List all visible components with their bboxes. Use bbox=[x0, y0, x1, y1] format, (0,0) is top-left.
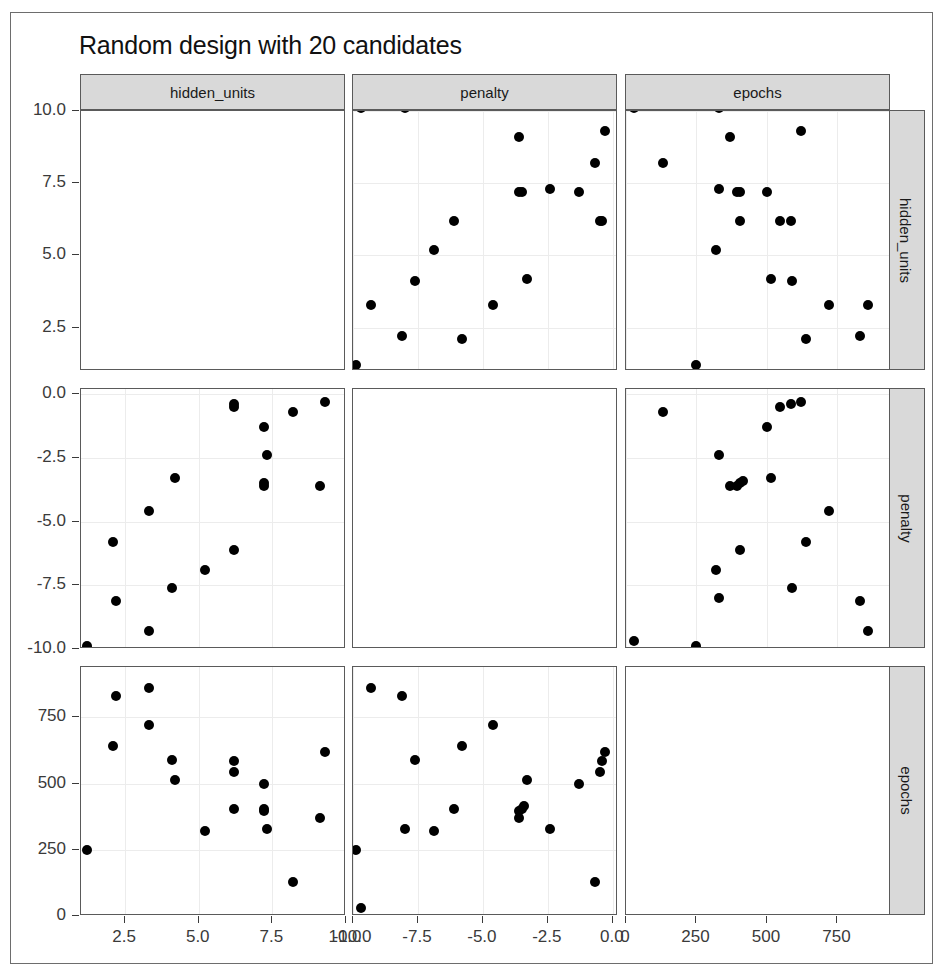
gridline-horizontal bbox=[81, 717, 344, 718]
data-point bbox=[259, 422, 269, 432]
x-tick-label: 2.5 bbox=[112, 927, 136, 947]
data-point bbox=[259, 478, 269, 488]
gridline-vertical bbox=[613, 667, 614, 914]
gridline-vertical bbox=[483, 111, 484, 369]
y-tick-mark bbox=[72, 783, 79, 784]
data-point bbox=[108, 537, 118, 547]
column-strip-hidden_units: hidden_units bbox=[80, 74, 345, 110]
data-point bbox=[855, 331, 865, 341]
data-point bbox=[229, 756, 239, 766]
column-strip-label: hidden_units bbox=[170, 84, 255, 101]
data-point bbox=[629, 636, 639, 646]
data-point bbox=[545, 824, 555, 834]
data-point bbox=[144, 506, 154, 516]
y-tick-label: 500 bbox=[0, 773, 66, 793]
gridline-vertical bbox=[125, 667, 126, 914]
y-tick-mark bbox=[72, 110, 79, 111]
y-tick-mark bbox=[72, 849, 79, 850]
row-strip-penalty: penalty bbox=[887, 388, 925, 648]
gridline-vertical bbox=[483, 667, 484, 914]
gridline-horizontal bbox=[81, 394, 344, 395]
x-tick-mark bbox=[417, 916, 418, 923]
data-point bbox=[824, 300, 834, 310]
x-tick-mark bbox=[625, 916, 626, 923]
data-point bbox=[600, 126, 610, 136]
data-point bbox=[356, 903, 366, 913]
data-point bbox=[775, 402, 785, 412]
data-point bbox=[517, 187, 527, 197]
y-tick-mark bbox=[72, 457, 79, 458]
data-point bbox=[735, 216, 745, 226]
gridline-horizontal bbox=[626, 328, 889, 329]
gridline-vertical bbox=[613, 111, 614, 369]
data-point bbox=[449, 804, 459, 814]
gridline-horizontal bbox=[353, 183, 616, 184]
data-point bbox=[397, 331, 407, 341]
data-point bbox=[514, 132, 524, 142]
data-point bbox=[111, 691, 121, 701]
x-tick-mark bbox=[695, 916, 696, 923]
data-point bbox=[457, 741, 467, 751]
row-strip-hidden_units: hidden_units bbox=[887, 110, 925, 370]
data-point bbox=[429, 826, 439, 836]
data-point bbox=[597, 756, 607, 766]
data-point bbox=[200, 565, 210, 575]
gridline-horizontal bbox=[353, 850, 616, 851]
data-point bbox=[320, 747, 330, 757]
data-point bbox=[229, 545, 239, 555]
panel-epochs-vs-penalty bbox=[352, 666, 617, 915]
panel-penalty-vs-hidden_units bbox=[80, 388, 345, 648]
x-tick-label: -10.0 bbox=[333, 927, 372, 947]
gridline-horizontal bbox=[626, 183, 889, 184]
data-point bbox=[400, 824, 410, 834]
data-point bbox=[824, 506, 834, 516]
data-point bbox=[691, 641, 701, 648]
data-point bbox=[170, 775, 180, 785]
data-point bbox=[714, 593, 724, 603]
data-point bbox=[229, 767, 239, 777]
x-tick-label: -7.5 bbox=[402, 927, 431, 947]
column-strip-penalty: penalty bbox=[352, 74, 617, 110]
panel-penalty-vs-penalty bbox=[352, 388, 617, 648]
x-tick-label: 500 bbox=[752, 927, 780, 947]
column-strip-label: penalty bbox=[460, 84, 508, 101]
row-strip-label: hidden_units bbox=[898, 197, 915, 282]
gridline-vertical bbox=[353, 667, 354, 914]
data-point bbox=[597, 216, 607, 226]
x-tick-mark bbox=[766, 916, 767, 923]
data-point bbox=[786, 216, 796, 226]
y-tick-label: 250 bbox=[0, 839, 66, 859]
x-tick-mark bbox=[271, 916, 272, 923]
y-tick-mark bbox=[72, 327, 79, 328]
data-point bbox=[200, 826, 210, 836]
data-point bbox=[522, 775, 532, 785]
y-tick-label: 10.0 bbox=[0, 100, 66, 120]
y-tick-mark bbox=[72, 254, 79, 255]
x-tick-label: 0 bbox=[620, 927, 629, 947]
data-point bbox=[259, 779, 269, 789]
data-point bbox=[517, 804, 527, 814]
data-point bbox=[796, 126, 806, 136]
gridline-horizontal bbox=[81, 850, 344, 851]
data-point bbox=[786, 399, 796, 409]
data-point bbox=[449, 216, 459, 226]
data-point bbox=[590, 877, 600, 887]
x-tick-mark bbox=[547, 916, 548, 923]
data-point bbox=[725, 132, 735, 142]
gridline-horizontal bbox=[626, 522, 889, 523]
data-point bbox=[787, 276, 797, 286]
data-point bbox=[352, 360, 361, 370]
x-tick-mark bbox=[124, 916, 125, 923]
data-point bbox=[522, 274, 532, 284]
panel-epochs-vs-hidden_units bbox=[80, 666, 345, 915]
x-tick-mark bbox=[836, 916, 837, 923]
data-point bbox=[658, 407, 668, 417]
data-point bbox=[545, 184, 555, 194]
gridline-vertical bbox=[837, 389, 838, 647]
data-point bbox=[457, 334, 467, 344]
panel-penalty-vs-epochs bbox=[625, 388, 890, 648]
data-point bbox=[574, 187, 584, 197]
row-strip-epochs: epochs bbox=[887, 666, 925, 915]
data-point bbox=[400, 110, 410, 113]
data-point bbox=[366, 300, 376, 310]
